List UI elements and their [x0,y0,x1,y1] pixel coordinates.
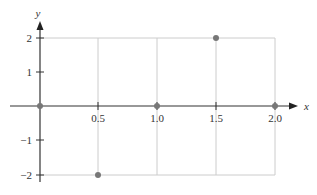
data-point [95,172,101,178]
data-point [37,103,43,109]
xtick-label: 1.5 [209,112,223,124]
ytick-label: 1 [27,66,33,78]
ytick-label: −2 [20,169,32,181]
x-axis-label: x [303,100,309,112]
y-axis [36,21,44,182]
chart: 0.5 1.0 1.5 2.0 2 1 −1 −2 x y [0,0,317,195]
data-point [213,35,219,41]
y-axis-label: y [35,7,41,19]
xtick-label: 1.0 [150,112,164,124]
x-axis-arrow-icon [289,103,298,110]
ytick-label: −1 [20,134,32,146]
y-axis-arrow-icon [37,21,44,30]
data-point [154,103,160,109]
xtick-label: 2.0 [268,112,282,124]
ytick-label: 2 [27,32,33,44]
data-point [272,103,278,109]
xtick-label: 0.5 [91,112,105,124]
